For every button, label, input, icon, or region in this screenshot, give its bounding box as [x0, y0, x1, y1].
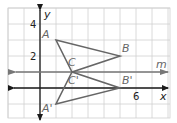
line-m-label: m: [156, 58, 167, 71]
vertex-b-prime-label: B': [122, 74, 133, 87]
y-axis-label: y: [43, 8, 51, 21]
vertex-c-prime-label: C': [68, 74, 79, 87]
x-tick-6: 6: [133, 91, 139, 102]
vertex-a-label: A: [41, 28, 50, 41]
y-tick-2: 2: [30, 51, 36, 62]
vertex-a-prime-label: A': [41, 102, 53, 115]
coordinate-plane: yx426mABCA'B'C': [0, 0, 177, 123]
vertex-c-label: C: [68, 56, 76, 69]
x-axis-label: x: [159, 90, 167, 103]
vertex-b-label: B: [122, 42, 130, 55]
y-tick-4: 4: [30, 19, 36, 30]
